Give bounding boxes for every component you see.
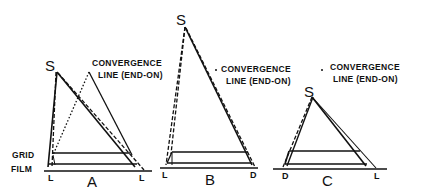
convergence-label-b-line1: CONVERGENCE xyxy=(221,64,291,74)
panel-b-right-end: D xyxy=(250,170,257,180)
panel-b-label: B xyxy=(205,171,215,188)
convergence-label-c-line1: CONVERGENCE xyxy=(330,62,400,72)
panel-a-geometry xyxy=(44,72,152,171)
source-label-c: S xyxy=(304,83,314,100)
source-label-a: S xyxy=(45,57,55,74)
panel-a-label: A xyxy=(87,173,97,190)
convergence-point-c xyxy=(321,69,323,71)
film-label: FILM xyxy=(11,164,32,174)
convergence-label-b-line2: LINE (END-ON) xyxy=(226,76,291,86)
convergence-point-b xyxy=(215,69,217,71)
convergence-label-c-line2: LINE (END-ON) xyxy=(333,74,398,84)
panel-b-left-end: L xyxy=(162,170,168,180)
grid-label: GRID xyxy=(12,150,34,160)
grid-convergence-diagram: S S S CONVERGENCE LINE (END-ON) CONVERGE… xyxy=(0,0,427,194)
panel-a-left-end: L xyxy=(48,173,54,183)
source-label-b: S xyxy=(176,11,186,28)
diagram: S S S CONVERGENCE LINE (END-ON) CONVERGE… xyxy=(0,0,427,194)
panel-c-geometry xyxy=(273,97,387,169)
panel-b-geometry xyxy=(160,27,258,168)
convergence-label-a-line2: LINE (END-ON) xyxy=(98,70,163,80)
convergence-label-a-line1: CONVERGENCE xyxy=(92,58,162,68)
panel-a-right-end: L xyxy=(139,173,145,183)
panel-c-left-end: D xyxy=(282,171,289,181)
panel-c-label: C xyxy=(322,172,333,189)
panel-c-right-end: L xyxy=(374,171,380,181)
